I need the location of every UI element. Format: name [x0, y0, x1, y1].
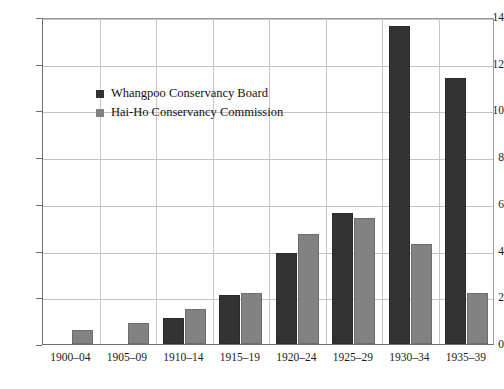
bar: [332, 213, 353, 344]
legend-item: Hai-Ho Conservancy Commission: [96, 103, 283, 122]
bar-chart: 02468101214 1900–041905–091910–141915–19…: [0, 0, 504, 389]
chart-legend: Whangpoo Conservancy BoardHai-Ho Conserv…: [96, 84, 283, 122]
y-gridline: [43, 206, 493, 207]
x-gridline: [213, 19, 214, 344]
y-tick-mark: [36, 345, 42, 346]
legend-item: Whangpoo Conservancy Board: [96, 84, 283, 103]
x-tick-label: 1905–09: [99, 351, 156, 364]
legend-item-label: Whangpoo Conservancy Board: [111, 87, 268, 100]
y-gridline: [43, 66, 493, 67]
bar: [354, 218, 375, 344]
bar: [467, 293, 488, 344]
bar: [163, 318, 184, 344]
bar: [389, 26, 410, 344]
dark-square-icon: [96, 90, 104, 98]
x-tick-label: 1925–29: [325, 351, 382, 364]
bar: [276, 253, 297, 344]
bar: [445, 78, 466, 344]
x-tick-label: 1920–24: [268, 351, 325, 364]
bar: [72, 330, 93, 344]
x-tick-label: 1935–39: [438, 351, 495, 364]
x-gridline: [326, 19, 327, 344]
bar: [411, 244, 432, 344]
x-tick-label: 1900–04: [42, 351, 99, 364]
x-gridline: [382, 19, 383, 344]
legend-item-label: Hai-Ho Conservancy Commission: [111, 106, 283, 119]
bar: [298, 234, 319, 344]
bar: [241, 293, 262, 344]
bar: [185, 309, 206, 344]
x-gridline: [156, 19, 157, 344]
x-gridline: [269, 19, 270, 344]
plot-area: [42, 18, 494, 345]
bar: [128, 323, 149, 344]
x-tick-label: 1910–14: [155, 351, 212, 364]
y-gridline: [43, 159, 493, 160]
gray-square-icon: [96, 109, 104, 117]
y-gridline: [43, 19, 493, 20]
x-tick-label: 1930–34: [381, 351, 438, 364]
bar: [219, 295, 240, 344]
x-gridline: [100, 19, 101, 344]
x-tick-label: 1915–19: [212, 351, 269, 364]
x-gridline: [439, 19, 440, 344]
